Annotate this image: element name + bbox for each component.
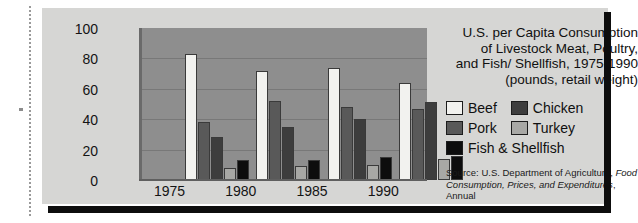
x-tick-label-1990: 1990 bbox=[356, 183, 427, 203]
source-prefix: Source: U.S. Department of Agriculture, bbox=[446, 167, 613, 178]
legend-label-fish-shellfish: Fish & Shellfish bbox=[468, 141, 564, 155]
bar-turkey-1985 bbox=[367, 165, 379, 180]
legend-swatch-chicken bbox=[511, 101, 528, 115]
y-tick-label: 80 bbox=[52, 52, 98, 66]
plot-area bbox=[139, 28, 427, 180]
legend-item-fish-shellfish: Fish & Shellfish bbox=[446, 141, 564, 155]
bar-turkey-1980 bbox=[295, 166, 307, 180]
bar-beef-1980 bbox=[256, 71, 268, 180]
y-tick-label: 0 bbox=[52, 174, 98, 188]
bar-beef-1975 bbox=[185, 54, 197, 180]
legend-swatch-pork bbox=[446, 121, 463, 135]
legend-label-beef: Beef bbox=[468, 101, 497, 115]
legend-label-chicken: Chicken bbox=[533, 101, 584, 115]
y-tick-label: 100 bbox=[52, 22, 98, 36]
y-tick-label: 60 bbox=[52, 83, 98, 97]
x-axis-line bbox=[139, 179, 427, 181]
legend-swatch-fish-shellfish bbox=[446, 141, 463, 155]
x-tick-label-1980: 1980 bbox=[213, 183, 284, 203]
bar-pork-1985 bbox=[341, 107, 353, 180]
chart-card: 100 80 60 40 20 0 1975 1980 1985 1990 U.… bbox=[42, 8, 608, 204]
bar-groups bbox=[180, 28, 465, 180]
bar-beef-1990 bbox=[399, 83, 411, 180]
legend-item-beef: Beef bbox=[446, 101, 497, 115]
bar-fish-shellfish-1975 bbox=[237, 160, 249, 180]
x-tick-label-1985: 1985 bbox=[285, 183, 356, 203]
bar-pork-1975 bbox=[198, 122, 210, 180]
scan-edge-artifact bbox=[29, 6, 31, 218]
legend-label-turkey: Turkey bbox=[533, 121, 575, 135]
x-tick-label-1975: 1975 bbox=[142, 183, 213, 203]
right-rule bbox=[604, 12, 611, 208]
legend-label-pork: Pork bbox=[468, 121, 497, 135]
bar-fish-shellfish-1980 bbox=[308, 160, 320, 180]
bar-chicken-1985 bbox=[354, 119, 366, 180]
y-tick-label: 40 bbox=[52, 113, 98, 127]
plot-wrapper: 100 80 60 40 20 0 1975 1980 1985 1990 bbox=[104, 28, 427, 190]
bar-fish-shellfish-1985 bbox=[380, 157, 392, 180]
bar-chicken-1980 bbox=[282, 127, 294, 180]
legend-swatch-turkey bbox=[511, 121, 528, 135]
bottom-rule bbox=[48, 206, 611, 213]
bar-pork-1990 bbox=[412, 109, 424, 180]
legend-item-pork: Pork bbox=[446, 121, 497, 135]
legend-swatch-beef bbox=[446, 101, 463, 115]
bar-group-1980 bbox=[251, 28, 322, 180]
legend-item-chicken: Chicken bbox=[511, 101, 584, 115]
bar-chicken-1975 bbox=[211, 137, 223, 180]
bar-group-1985 bbox=[323, 28, 394, 180]
bar-beef-1985 bbox=[328, 68, 340, 180]
bar-pork-1980 bbox=[269, 101, 281, 180]
scan-tick-artifact bbox=[19, 108, 23, 111]
legend-item-turkey: Turkey bbox=[511, 121, 575, 135]
bar-group-1975 bbox=[180, 28, 251, 180]
y-tick-label: 20 bbox=[52, 144, 98, 158]
x-axis-labels: 1975 1980 1985 1990 bbox=[142, 183, 427, 203]
